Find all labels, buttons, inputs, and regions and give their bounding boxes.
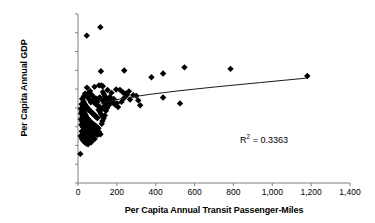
x-tick-label: 1,200 xyxy=(301,188,322,197)
x-tick-label: 400 xyxy=(149,188,163,197)
x-tick-label: 1,400 xyxy=(339,188,360,197)
r-equals-value: = 0.3363 xyxy=(250,135,288,145)
data-point xyxy=(148,74,154,80)
data-point xyxy=(84,32,90,38)
data-point xyxy=(181,64,187,70)
x-tick-label: 200 xyxy=(110,188,124,197)
data-point xyxy=(177,100,183,106)
x-tick-label: 600 xyxy=(187,188,201,197)
x-axis-title: Per Capita Annual Transit Passenger-Mile… xyxy=(78,205,350,215)
data-point xyxy=(160,70,166,76)
data-point xyxy=(97,24,103,30)
x-tick-label: 800 xyxy=(226,188,240,197)
x-tick-label: 0 xyxy=(76,188,81,197)
r-squared-annotation: R2 = 0.3363 xyxy=(240,133,288,145)
x-tick-label: 1,000 xyxy=(262,188,283,197)
scatter-chart: Per Capita Annual GDP $0$10,000$20,000$3… xyxy=(0,0,375,223)
data-point xyxy=(227,66,233,72)
axis-lines xyxy=(78,14,350,183)
data-point xyxy=(121,67,127,73)
data-point xyxy=(98,68,104,74)
data-point xyxy=(160,94,166,100)
